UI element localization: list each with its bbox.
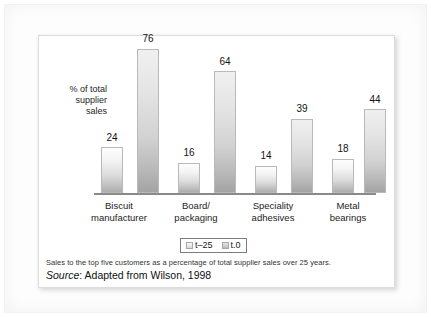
figure-source: Source: Adapted from Wilson, 1998 xyxy=(46,269,211,281)
bar-value-1-1: 64 xyxy=(205,56,245,67)
figure-caption: Sales to the top five customers as a per… xyxy=(46,258,331,267)
bar-value-2-1: 39 xyxy=(282,103,322,114)
legend-item-t-zero[interactable]: t.0 xyxy=(222,240,241,250)
legend-label-t-zero: t.0 xyxy=(231,240,241,250)
bar-value-1-0: 16 xyxy=(169,147,209,158)
bar-value-0-0: 24 xyxy=(92,132,132,143)
bar-1-0[interactable] xyxy=(178,163,200,193)
legend-item-t-minus-25[interactable]: t–25 xyxy=(186,240,213,250)
x-axis-line xyxy=(94,193,376,195)
chart-legend: t–25 t.0 xyxy=(180,238,247,253)
bar-3-1[interactable] xyxy=(364,109,386,193)
bar-0-1[interactable] xyxy=(137,49,159,193)
legend-label-t-minus-25: t–25 xyxy=(195,240,213,250)
bar-value-0-1: 76 xyxy=(128,33,168,44)
y-axis-label: % of total supplier sales xyxy=(45,84,107,117)
bar-value-3-1: 44 xyxy=(355,94,395,105)
bar-1-1[interactable] xyxy=(214,71,236,193)
bar-3-0[interactable] xyxy=(332,159,354,193)
source-text: : Adapted from Wilson, 1998 xyxy=(79,269,211,281)
screenshot-root: % of total supplier sales 24 76 Biscuit … xyxy=(0,0,431,317)
bar-value-2-0: 14 xyxy=(246,150,286,161)
figure-outer-frame: % of total supplier sales 24 76 Biscuit … xyxy=(4,4,427,313)
category-label-3: Metal bearings xyxy=(300,200,396,223)
bar-2-1[interactable] xyxy=(291,119,313,193)
source-word: Source xyxy=(46,269,79,281)
chart-panel: % of total supplier sales 24 76 Biscuit … xyxy=(38,35,395,288)
plot-area: % of total supplier sales 24 76 Biscuit … xyxy=(39,36,396,198)
bar-2-0[interactable] xyxy=(255,166,277,193)
bar-0-0[interactable] xyxy=(101,147,123,193)
bar-value-3-0: 18 xyxy=(323,143,363,154)
legend-swatch-t-minus-25-icon xyxy=(186,242,193,249)
legend-swatch-t-zero-icon xyxy=(222,242,229,249)
